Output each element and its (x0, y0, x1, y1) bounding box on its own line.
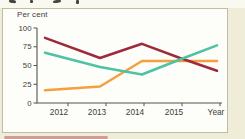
orange-line (45, 61, 217, 90)
x-axis-tick-label: 2014 (126, 107, 145, 117)
cropped-content-below-fragment (4, 136, 108, 139)
x-axis-tick-label: 2015 (165, 107, 184, 117)
y-axis-tick-label: 0 (27, 99, 32, 108)
y-axis-tick-label: 100 (18, 24, 32, 33)
line-chart: 02550751002012201320142015Year (0, 0, 245, 139)
y-axis-title: Per cent (17, 10, 48, 19)
x-axis-title: Year (208, 107, 225, 117)
y-axis-tick-label: 75 (23, 42, 32, 51)
axes (37, 28, 222, 103)
x-axis-tick-label: 2013 (88, 107, 107, 117)
x-axis-tick-label: 2012 (50, 107, 69, 117)
y-axis-tick-label: 50 (23, 61, 32, 70)
y-axis-tick-label: 25 (23, 80, 32, 89)
